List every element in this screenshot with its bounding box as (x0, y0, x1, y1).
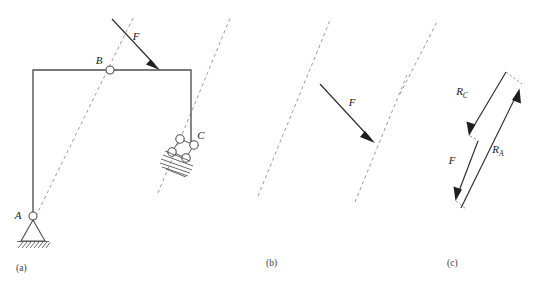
pin-support-triangle-a (21, 220, 45, 241)
joint-a-circle (29, 212, 37, 220)
label-point-a: A (14, 209, 22, 221)
axis-stray-dashed-line (400, 22, 437, 94)
force-arrow-f-panel-b (320, 84, 375, 143)
frame-member-abc (33, 70, 191, 216)
joint-b-circle (106, 66, 114, 74)
panel-caption-a: (a) (16, 263, 27, 274)
engineering-diagram: A B C F (a) F (b) (0, 0, 538, 283)
roller-circle-2 (190, 141, 198, 149)
panel-a: A B C F (a) (14, 16, 231, 274)
panel-b: F (b) (258, 18, 407, 269)
vector-ra (461, 89, 521, 209)
label-reaction-ra: RA (491, 143, 504, 158)
vector-rc (467, 72, 507, 136)
label-reaction-rc: RC (455, 85, 469, 100)
panel-c: RC RA F (c) (400, 22, 522, 269)
label-point-b: B (96, 54, 103, 66)
axis-right-dashed-line (355, 75, 407, 202)
panel-caption-c: (c) (447, 258, 458, 269)
label-point-c: C (197, 129, 205, 141)
ground-hatching-a (18, 242, 50, 248)
panel-caption-b: (b) (266, 258, 277, 269)
label-force-f-panel-b: F (348, 96, 356, 108)
axis-through-a-b-dashed-line (33, 16, 134, 222)
axis-left-dashed-line (258, 18, 331, 196)
label-force-f-panel-c: F (448, 154, 456, 166)
axis-through-c-dashed-line (158, 16, 231, 193)
vector-f-panel-c (454, 141, 479, 201)
closing-mid-dashed-line (470, 136, 479, 141)
figure-root: A B C F (a) F (b) (0, 0, 538, 283)
closing-top-dashed-line (506, 72, 522, 84)
roller-circle-1 (176, 135, 184, 143)
force-arrow-f-panel-a (112, 19, 160, 70)
label-force-f-panel-a: F (132, 30, 140, 42)
